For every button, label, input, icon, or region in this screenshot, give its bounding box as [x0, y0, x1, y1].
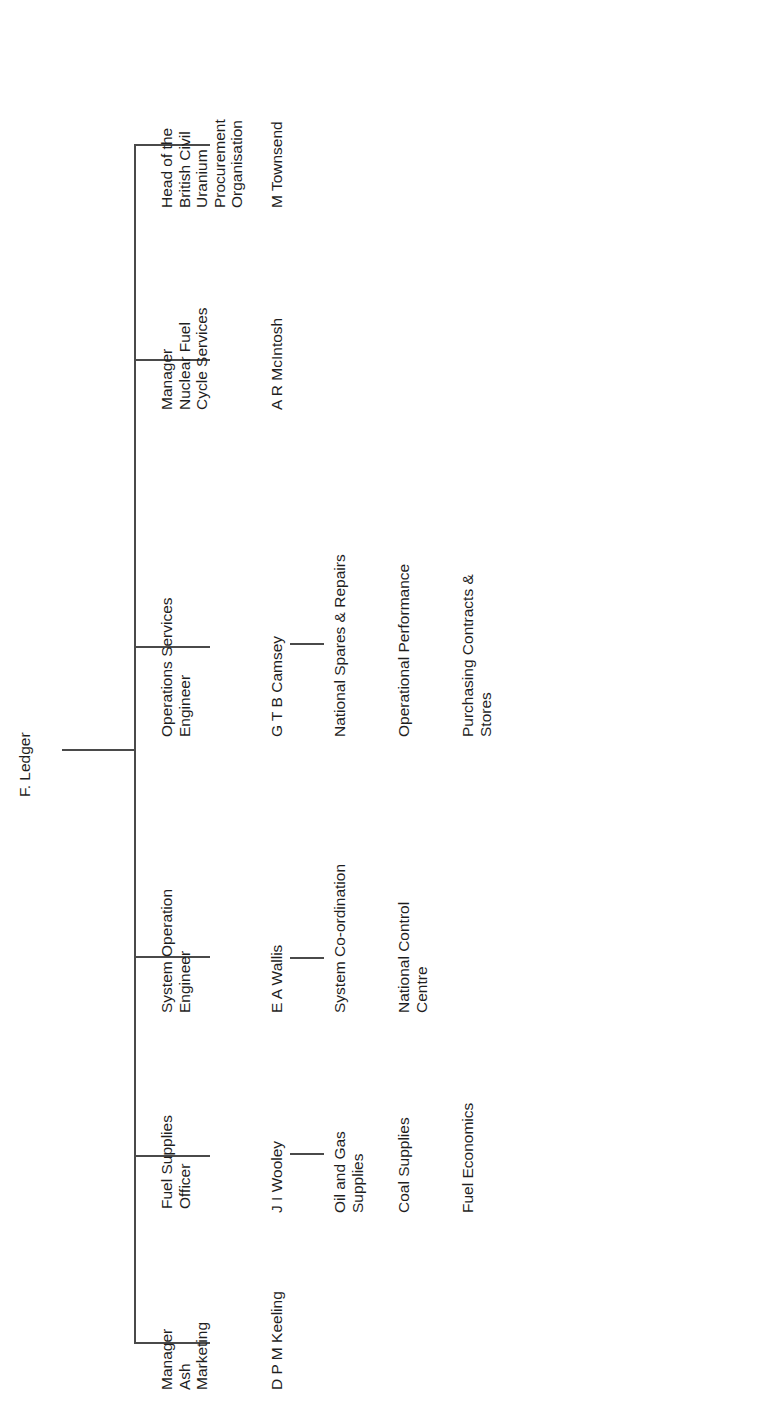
dept-head-mcintosh: A R McIntosh	[268, 318, 286, 410]
sub-unit-oil-gas: Oil and Gas Supplies	[331, 1131, 366, 1213]
dept-title-ash-marketing: Manager Ash Marketing	[158, 1322, 211, 1390]
sub-unit-coal: Coal Supplies	[395, 1117, 413, 1213]
dept-head-keeling: D P M Keeling	[268, 1291, 286, 1390]
sub-unit-fuel-economics: Fuel Economics	[459, 1103, 477, 1213]
sub-connector-wallis	[290, 957, 324, 959]
dept-head-townsend: M Townsend	[268, 121, 286, 208]
sub-connector-camsey	[290, 643, 324, 645]
sub-unit-national-control-centre: National Control Centre	[395, 902, 430, 1013]
root-connector	[62, 749, 136, 751]
sub-unit-national-spares: National Spares & Repairs	[331, 554, 349, 737]
sub-unit-system-coordination: System Co-ordination	[331, 864, 349, 1013]
sub-unit-operational-performance: Operational Performance	[395, 564, 413, 737]
dept-head-wooley: J I Wooley	[268, 1141, 286, 1213]
dept-head-wallis: E A Wallis	[268, 945, 286, 1013]
root-name: F. Ledger	[16, 732, 34, 797]
dept-title-nuclear-fuel-cycle: Manager Nuclear Fuel Cycle Services	[158, 308, 211, 411]
sub-unit-purchasing-contracts: Purchasing Contracts & Stores	[459, 574, 494, 737]
dept-title-uranium-procurement: Head of the British Civil Uranium Procur…	[158, 119, 246, 208]
dept-title-fuel-supplies: Fuel Supplies Officer	[158, 1115, 193, 1209]
sub-connector-wooley	[290, 1153, 324, 1155]
dept-title-operations-services: Operations Services Engineer	[158, 597, 193, 737]
dept-title-system-operation: System Operation Engineer	[158, 889, 193, 1013]
dept-head-camsey: G T B Camsey	[268, 636, 286, 737]
main-trunk-line	[134, 144, 136, 1343]
